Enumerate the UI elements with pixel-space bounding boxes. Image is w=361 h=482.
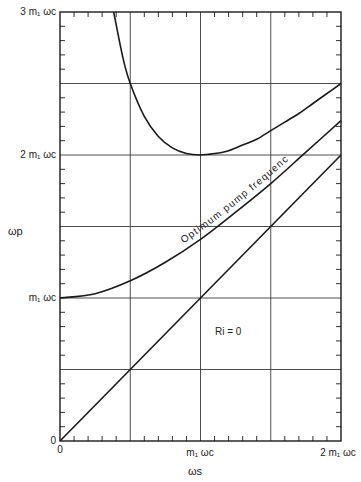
y-tick-label-1: m₁ ωc <box>0 293 56 303</box>
x-tick-label-0: 0 <box>30 445 90 455</box>
ri-zero-annotation: Ri = 0 <box>215 327 241 337</box>
chart-plot: Optimum pump frequency <box>0 0 361 482</box>
y-tick-label-3: 3 m₁ ωc <box>0 7 56 17</box>
y-axis-title: ωp <box>8 226 23 237</box>
curve-label-optimum: Optimum pump frequency <box>0 0 291 245</box>
x-axis-title: ωs <box>188 466 202 477</box>
y-tick-label-2: 2 m₁ ωc <box>0 150 56 160</box>
x-tick-label-1: m₁ ωc <box>170 448 230 458</box>
x-tick-label-2: 2 m₁ ωc <box>308 448 361 458</box>
